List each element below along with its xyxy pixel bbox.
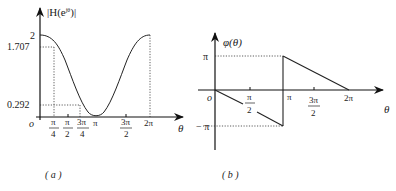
svg-text:2: 2 xyxy=(247,105,252,115)
b-y-axis-label: φ(θ) xyxy=(223,36,242,49)
panel-b-phase-plot: φ(θ) π − π o θ π 2 π 3π 2 2π ( b ) xyxy=(196,33,390,181)
b-ytick-pi: π xyxy=(203,51,208,62)
a-xtick-3pi-4: 3π 4 xyxy=(77,117,89,139)
svg-text:π: π xyxy=(51,117,56,127)
b-xtick-2pi: 2π xyxy=(344,93,354,103)
a-ytick-2: 2 xyxy=(30,30,35,41)
svg-text:3π: 3π xyxy=(121,117,131,127)
a-ytick-1707: 1.707 xyxy=(7,41,30,52)
a-origin-label: o xyxy=(29,118,34,129)
svg-text:3π: 3π xyxy=(309,95,319,105)
b-xtick-pi-2: π 2 xyxy=(245,92,255,115)
a-xtick-pi: π xyxy=(93,118,98,128)
svg-text:π: π xyxy=(247,92,252,102)
b-phase-curve xyxy=(215,56,349,126)
a-xtick-3pi-2: 3π 2 xyxy=(120,117,132,139)
svg-text:4: 4 xyxy=(51,129,56,139)
svg-text:3π: 3π xyxy=(77,117,87,127)
b-x-axis-label: θ xyxy=(384,103,390,115)
b-origin-label: o xyxy=(207,92,212,103)
a-ytick-0292: 0.292 xyxy=(7,99,30,110)
a-x-axis-label: θ xyxy=(178,122,184,134)
a-xtick-pi-2: π 2 xyxy=(63,117,73,139)
svg-text:2: 2 xyxy=(124,129,129,139)
a-caption: ( a ) xyxy=(45,169,62,181)
b-xtick-pi: π xyxy=(287,92,292,102)
svg-text:π: π xyxy=(65,117,70,127)
svg-text:2: 2 xyxy=(311,108,316,118)
a-xtick-pi-4: π 4 xyxy=(49,117,59,139)
b-ytick-neg-pi: − π xyxy=(196,121,209,132)
figure-canvas: |H(ejθ)| 2 1.707 0.292 o θ π 4 π 2 3π 4 … xyxy=(0,0,396,191)
b-caption: ( b ) xyxy=(222,169,239,181)
b-xtick-3pi-2: 3π 2 xyxy=(308,95,320,118)
a-y-axis-label: |H(ejθ)| xyxy=(47,6,76,19)
a-magnitude-curve xyxy=(40,35,150,116)
svg-text:4: 4 xyxy=(80,129,85,139)
panel-a-magnitude-plot: |H(ejθ)| 2 1.707 0.292 o θ π 4 π 2 3π 4 … xyxy=(7,6,184,181)
a-xtick-2pi: 2π xyxy=(144,118,154,128)
svg-text:2: 2 xyxy=(65,129,70,139)
